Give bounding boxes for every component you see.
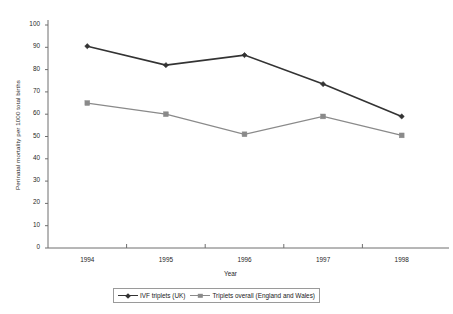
data-point-marker <box>85 101 90 106</box>
data-point-marker <box>163 63 168 68</box>
series-line-1 <box>87 103 401 135</box>
chart-legend: IVF triplets (UK) Triplets overall (Engl… <box>113 288 320 303</box>
plot-area <box>0 0 453 314</box>
data-point-marker <box>242 132 247 137</box>
legend-label-ivf-triplets: IVF triplets (UK) <box>140 292 185 299</box>
data-point-marker <box>321 114 326 119</box>
data-point-marker <box>164 112 169 117</box>
data-point-marker <box>85 44 90 49</box>
data-point-marker <box>399 114 404 119</box>
data-point-marker <box>321 82 326 87</box>
perinatal-mortality-line-chart: Perinatal mortality per 1000 total birth… <box>0 0 453 314</box>
legend-key-diamond-icon <box>118 291 138 300</box>
data-point-marker <box>399 133 404 138</box>
x-axis-title: Year <box>4 270 453 277</box>
data-point-marker <box>242 53 247 58</box>
legend-entry-triplets-overall: Triplets overall (England and Wales) <box>190 291 315 300</box>
legend-label-triplets-overall: Triplets overall (England and Wales) <box>212 292 315 299</box>
legend-entry-ivf-triplets: IVF triplets (UK) <box>118 291 185 300</box>
legend-key-square-icon <box>190 291 210 300</box>
